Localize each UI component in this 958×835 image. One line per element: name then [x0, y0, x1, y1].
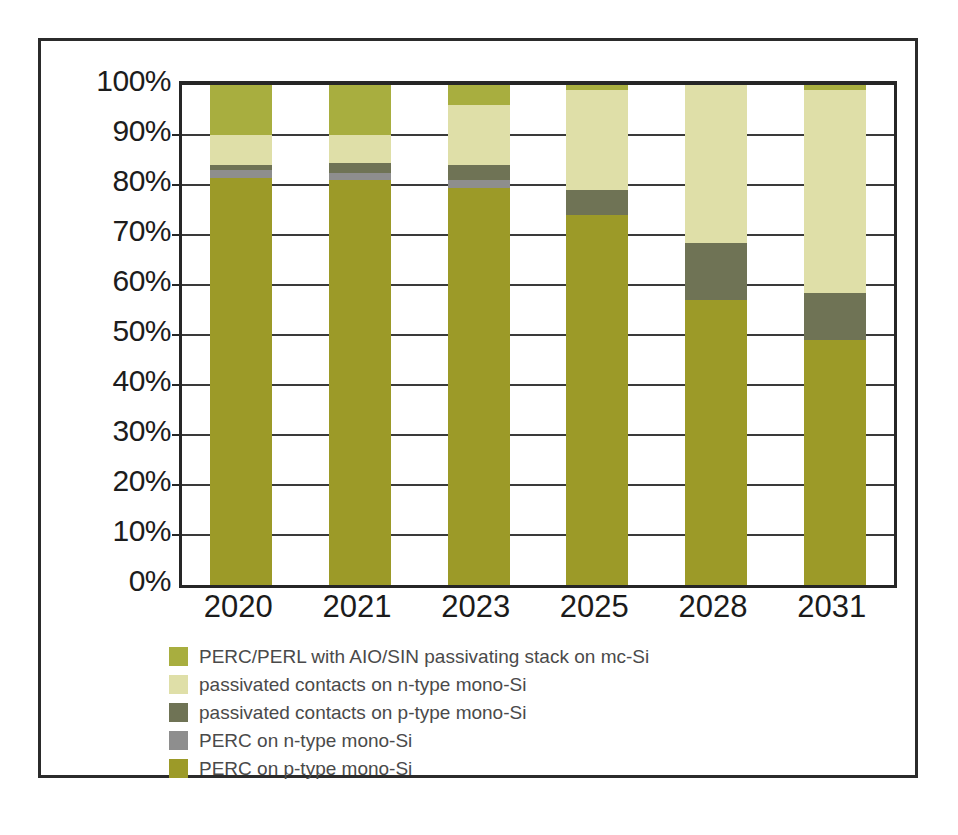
y-tick-mark [172, 134, 182, 136]
stacked-bar-chart: 0%10%20%30%40%50%60%70%80%90%100% 202020… [41, 41, 921, 781]
bar-segment[interactable] [329, 163, 391, 173]
bar-segment[interactable] [448, 188, 510, 586]
bar-2020[interactable] [210, 85, 272, 585]
y-tick-label: 100% [96, 64, 171, 98]
plot-area [179, 81, 897, 588]
legend-swatch-icon [169, 731, 188, 750]
y-tick-label: 80% [112, 164, 171, 198]
y-tick-mark [172, 434, 182, 436]
bar-segment[interactable] [448, 85, 510, 105]
legend-item[interactable]: passivated contacts on p-type mono-Si [169, 699, 909, 726]
y-tick-mark [172, 334, 182, 336]
legend-item[interactable]: PERC on n-type mono-Si [169, 727, 909, 754]
bar-segment[interactable] [804, 340, 866, 585]
bar-segment[interactable] [566, 215, 628, 585]
legend-swatch-icon [169, 675, 188, 694]
bar-segment[interactable] [329, 135, 391, 163]
bar-segment[interactable] [448, 105, 510, 165]
legend-swatch-icon [169, 759, 188, 778]
x-tick-label-2031: 2031 [797, 589, 866, 625]
y-tick-label: 90% [112, 114, 171, 148]
legend-label: PERC on n-type mono-Si [199, 730, 412, 752]
bar-2031[interactable] [804, 85, 866, 585]
plot-inner [182, 85, 894, 585]
bar-segment[interactable] [685, 85, 747, 243]
y-tick-label: 20% [112, 464, 171, 498]
bar-segment[interactable] [566, 85, 628, 90]
y-tick-label: 70% [112, 214, 171, 248]
bar-segment[interactable] [804, 85, 866, 90]
legend-item[interactable]: PERC/PERL with AIO/SIN passivating stack… [169, 643, 909, 670]
legend-label: PERC/PERL with AIO/SIN passivating stack… [199, 646, 649, 668]
y-tick-mark [172, 484, 182, 486]
legend-label: passivated contacts on p-type mono-Si [199, 702, 526, 724]
y-axis-labels: 0%10%20%30%40%50%60%70%80%90%100% [59, 63, 171, 583]
y-tick-label: 30% [112, 414, 171, 448]
bar-2028[interactable] [685, 85, 747, 585]
bar-2023[interactable] [448, 85, 510, 585]
x-tick-label-2023: 2023 [441, 589, 510, 625]
bar-2021[interactable] [329, 85, 391, 585]
legend-label: PERC on p-type mono-Si [199, 758, 412, 780]
bar-segment[interactable] [329, 85, 391, 135]
bar-segment[interactable] [210, 165, 272, 170]
bar-segment[interactable] [448, 180, 510, 188]
bar-segment[interactable] [210, 135, 272, 165]
y-tick-mark [172, 234, 182, 236]
chart-page: 0%10%20%30%40%50%60%70%80%90%100% 202020… [0, 0, 958, 835]
x-axis-labels: 202020212023202520282031 [179, 589, 891, 635]
bar-segment[interactable] [329, 173, 391, 181]
legend-item[interactable]: PERC on p-type mono-Si [169, 755, 909, 782]
bar-segment[interactable] [566, 90, 628, 190]
bar-segment[interactable] [210, 85, 272, 135]
bar-2025[interactable] [566, 85, 628, 585]
x-tick-label-2025: 2025 [560, 589, 629, 625]
legend-swatch-icon [169, 703, 188, 722]
x-tick-label-2020: 2020 [204, 589, 273, 625]
x-tick-label-2028: 2028 [679, 589, 748, 625]
legend-label: passivated contacts on n-type mono-Si [199, 674, 526, 696]
y-tick-label: 10% [112, 514, 171, 548]
bar-segment[interactable] [210, 178, 272, 586]
chart-legend: PERC/PERL with AIO/SIN passivating stack… [169, 643, 909, 783]
bar-segment[interactable] [329, 180, 391, 585]
bar-segment[interactable] [685, 300, 747, 585]
figure-frame: 0%10%20%30%40%50%60%70%80%90%100% 202020… [38, 38, 918, 778]
y-tick-label: 50% [112, 314, 171, 348]
y-tick-mark [172, 384, 182, 386]
bar-group [182, 85, 894, 585]
y-tick-label: 60% [112, 264, 171, 298]
bar-segment[interactable] [804, 90, 866, 293]
y-tick-label: 0% [129, 564, 171, 598]
legend-swatch-icon [169, 647, 188, 666]
bar-segment[interactable] [210, 170, 272, 178]
y-tick-label: 40% [112, 364, 171, 398]
legend-item[interactable]: passivated contacts on n-type mono-Si [169, 671, 909, 698]
x-tick-label-2021: 2021 [323, 589, 392, 625]
bar-segment[interactable] [448, 165, 510, 180]
bar-segment[interactable] [804, 293, 866, 341]
y-tick-mark [172, 284, 182, 286]
y-tick-mark [172, 534, 182, 536]
y-tick-mark [172, 184, 182, 186]
bar-segment[interactable] [685, 243, 747, 301]
bar-segment[interactable] [566, 190, 628, 215]
